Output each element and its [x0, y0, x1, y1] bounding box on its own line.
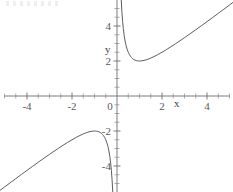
- curve-branch: [121, 0, 233, 61]
- x-tick-label: 0: [107, 100, 113, 112]
- x-tick-label: -4: [22, 100, 32, 112]
- x-axis-tick-labels: -4-2024: [22, 100, 210, 112]
- x-axis-label: x: [174, 97, 180, 109]
- x-tick-label: -2: [67, 100, 76, 112]
- y-axis-label: y: [105, 43, 111, 55]
- function-plot-figure: -4-2024 -4-224 x y: [0, 0, 233, 192]
- x-tick-label: 4: [204, 100, 210, 112]
- x-tick-label: 2: [159, 100, 165, 112]
- plot-canvas: -4-2024 -4-224 x y: [0, 0, 233, 192]
- y-tick-label: 4: [106, 20, 112, 32]
- curve-branch: [0, 131, 113, 192]
- y-tick-label: 2: [106, 55, 112, 67]
